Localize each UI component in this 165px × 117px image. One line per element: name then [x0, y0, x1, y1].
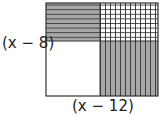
region-top-right [100, 3, 158, 41]
bottom-side-label: (x − 12) [72, 97, 134, 115]
left-side-label: (x − 8) [2, 34, 54, 52]
region-bottom-right [100, 41, 158, 96]
